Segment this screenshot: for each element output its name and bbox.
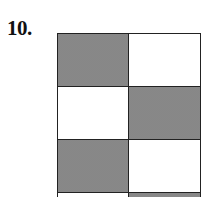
problem-number: 10. xyxy=(7,16,32,41)
grid-cell-r1-c2 xyxy=(128,33,201,87)
grid-cell-r3-c2 xyxy=(128,139,201,193)
checkerboard-grid xyxy=(57,33,201,197)
grid-cell-r3-c1 xyxy=(57,139,129,193)
grid-cell-r1-c1 xyxy=(57,33,129,87)
grid-cell-r2-c1 xyxy=(57,86,129,140)
grid-cell-r2-c2 xyxy=(128,86,201,140)
grid-cell-r4-c2 xyxy=(128,192,201,197)
grid-cell-r4-c1 xyxy=(57,192,129,197)
